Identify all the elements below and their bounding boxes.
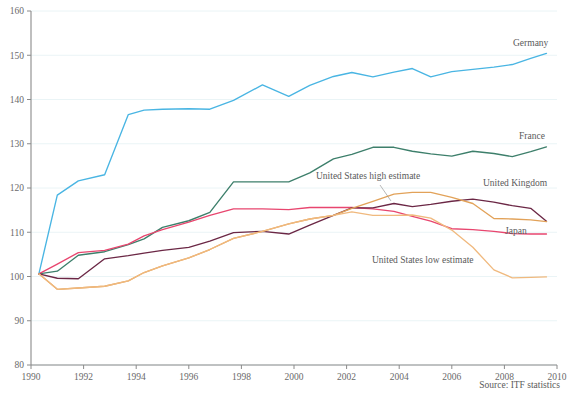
series-line-united-states-low-estimate [39,212,547,289]
series-label-united-states-high-estimate: United States high estimate [316,171,420,181]
y-tick-label: 150 [10,51,25,61]
x-tick-label: 1992 [74,372,93,382]
x-tick-label: 2004 [390,372,409,382]
chart-canvas: 1990199219941996199820002002200420062008… [0,0,568,396]
data-series-group [39,53,547,289]
y-tick-label: 110 [10,228,24,238]
series-line-germany [39,53,547,273]
gridlines [31,11,557,365]
y-tick-label: 140 [10,95,25,105]
x-tick-label: 2000 [285,372,304,382]
y-tick-label: 120 [10,183,25,193]
x-tick-label: 1996 [179,372,198,382]
y-tick-label: 80 [15,360,25,370]
series-label-united-kingdom: United Kingdom [483,178,548,188]
series-label-france: France [519,131,545,141]
y-tick-label: 160 [10,6,25,16]
y-tick-label: 130 [10,139,25,149]
y-tick-label: 90 [15,316,25,326]
series-label-germany: Germany [513,38,549,48]
series-label-united-states-low-estimate: United States low estimate [372,255,474,265]
series-line-united-kingdom [39,199,547,279]
series-label-japan: Japan [505,226,527,236]
x-tick-label: 1998 [232,372,251,382]
source-note: Source: ITF statistics [479,380,560,390]
x-tick-label: 2002 [337,372,356,382]
series-line-united-states-high-estimate [39,192,547,289]
x-tick-label: 1994 [127,372,146,382]
y-tick-label: 100 [10,272,25,282]
x-tick-label: 1990 [22,372,41,382]
x-tick-label: 2006 [442,372,461,382]
y-axis-ticks: 8090100110120130140150160 [10,6,31,370]
line-chart: 1990199219941996199820002002200420062008… [0,0,568,396]
